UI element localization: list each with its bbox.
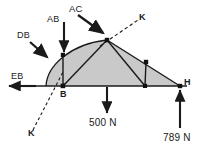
load-label-789n: 789 N — [163, 133, 191, 143]
force-arrow-db — [30, 42, 47, 57]
load-label-500n: 500 N — [89, 118, 117, 128]
force-label-db: DB — [17, 31, 30, 40]
force-label-ab: AB — [47, 15, 59, 24]
node-f — [144, 60, 148, 64]
node-c — [105, 38, 109, 42]
node-g — [143, 84, 147, 88]
node-b — [61, 84, 66, 89]
force-label-ac: AC — [69, 4, 83, 14]
diagram-canvas: AB AC DB EB K K B H 500 N 789 N — [0, 0, 211, 150]
node-label-b: B — [60, 90, 67, 99]
member-f-g — [145, 62, 146, 86]
node-label-h: H — [184, 78, 191, 87]
section-label-k-bottom: K — [28, 129, 35, 138]
section-label-k-top: K — [139, 13, 146, 22]
node-h — [178, 84, 182, 88]
force-label-eb: EB — [11, 72, 23, 81]
node-b2 — [61, 53, 65, 57]
force-arrow-ac — [78, 15, 103, 33]
